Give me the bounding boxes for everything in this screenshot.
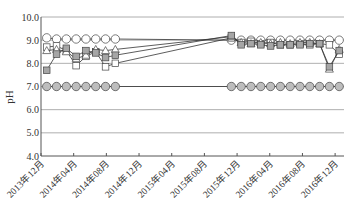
data-point xyxy=(276,82,284,90)
data-point xyxy=(62,82,70,90)
data-point xyxy=(267,43,274,50)
data-point xyxy=(53,51,60,58)
y-tick-label: 7.0 xyxy=(27,81,40,92)
data-point xyxy=(72,82,80,90)
data-point xyxy=(237,82,245,90)
data-point xyxy=(52,35,60,43)
data-point xyxy=(82,82,90,90)
data-point xyxy=(92,82,100,90)
ph-line-chart: 4.05.06.07.08.09.010.0 pH 2013年12月2014年0… xyxy=(0,0,355,213)
data-point xyxy=(296,82,304,90)
data-point xyxy=(306,82,314,90)
data-point xyxy=(248,40,255,47)
data-point xyxy=(238,42,245,49)
data-point xyxy=(326,42,333,49)
x-tick-labels: 2013年12月2014年04月2014年08月2014年12月2015年04月… xyxy=(4,158,340,200)
data-point xyxy=(316,40,323,47)
data-point xyxy=(111,35,119,43)
y-tick-label: 8.0 xyxy=(27,58,40,69)
y-tick-label: 5.0 xyxy=(27,127,40,138)
data-point xyxy=(73,53,80,60)
data-point xyxy=(227,82,235,90)
data-point xyxy=(43,82,51,90)
data-point xyxy=(266,82,274,90)
data-point xyxy=(73,62,80,69)
data-point xyxy=(112,60,119,67)
data-point xyxy=(102,54,109,61)
series-group xyxy=(43,32,344,90)
data-point xyxy=(257,82,265,90)
data-point xyxy=(257,42,264,49)
data-point xyxy=(62,35,70,43)
data-point xyxy=(92,35,100,43)
data-point xyxy=(63,45,70,52)
data-point xyxy=(297,42,304,49)
y-tick-label: 9.0 xyxy=(27,35,40,46)
data-point xyxy=(336,47,343,54)
data-point xyxy=(43,34,51,42)
data-point xyxy=(101,35,109,43)
data-point xyxy=(43,67,50,74)
data-point xyxy=(335,82,343,90)
data-point xyxy=(228,32,235,39)
y-tick-labels: 4.05.06.07.08.09.010.0 xyxy=(22,12,40,162)
data-point xyxy=(101,82,109,90)
y-tick-label: 10.0 xyxy=(22,12,40,23)
data-point xyxy=(82,35,90,43)
data-point xyxy=(277,42,284,49)
gridlines xyxy=(41,17,344,133)
y-axis-title: pH xyxy=(3,90,15,104)
data-point xyxy=(72,35,80,43)
data-point xyxy=(335,36,343,44)
series-grey-circle xyxy=(43,82,344,90)
data-point xyxy=(111,82,119,90)
data-point xyxy=(315,82,323,90)
series-line xyxy=(47,37,339,69)
data-point xyxy=(112,52,119,59)
data-point xyxy=(247,82,255,90)
data-point xyxy=(325,82,333,90)
data-point xyxy=(306,40,313,47)
data-point xyxy=(92,50,99,57)
data-point xyxy=(83,47,90,54)
y-tick-label: 6.0 xyxy=(27,104,40,115)
data-point xyxy=(102,64,109,71)
data-point xyxy=(287,42,294,49)
data-point xyxy=(52,82,60,90)
data-point xyxy=(286,82,294,90)
data-point xyxy=(326,64,333,71)
